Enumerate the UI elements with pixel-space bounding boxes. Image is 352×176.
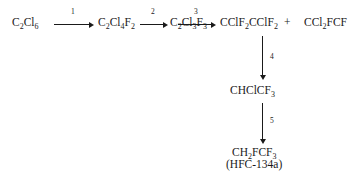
arrow-head xyxy=(163,22,168,28)
step-number-5: 5 xyxy=(270,116,274,125)
arrow-shaft xyxy=(178,24,211,25)
reaction-arrow-1 xyxy=(54,21,94,28)
step-number-3: 3 xyxy=(194,7,198,16)
species-hexachloroethane: C2Cl6 xyxy=(12,16,39,28)
arrow-shaft xyxy=(54,24,89,25)
reaction-arrow-4 xyxy=(259,36,266,80)
step-number-4: 4 xyxy=(270,52,274,61)
product-alt-name: (HFC-134a) xyxy=(226,158,282,170)
arrow-shaft xyxy=(262,36,263,75)
species-cfc-114: CClF2CClF2 xyxy=(220,16,278,28)
species-hfc-134a: CH2FCF3 xyxy=(232,146,276,158)
plus-sign: + xyxy=(284,16,291,28)
arrow-head xyxy=(260,139,266,144)
reaction-arrow-3 xyxy=(178,21,216,28)
arrow-shaft xyxy=(140,24,163,25)
arrow-shaft xyxy=(262,103,263,139)
species-hcfc-133a: CHClCF3 xyxy=(230,84,275,96)
reaction-arrow-5 xyxy=(259,103,266,144)
arrow-head xyxy=(260,75,266,80)
arrow-head xyxy=(211,22,216,28)
step-number-2: 2 xyxy=(151,7,155,16)
step-number-1: 1 xyxy=(71,7,75,16)
reaction-arrow-2 xyxy=(140,21,168,28)
species-cfc-112: C2Cl4F2 xyxy=(98,16,135,28)
arrow-head xyxy=(89,22,94,28)
species-cfc-114a: CCl2FCF xyxy=(304,16,347,28)
reaction-scheme-diagram: C2Cl6 1 C2Cl4F2 2 C2Cl3F3 3 CClF2CClF2 +… xyxy=(0,0,352,176)
